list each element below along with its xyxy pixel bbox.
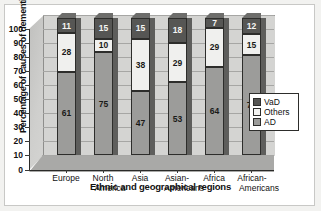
segment-ad[interactable]: 75	[94, 52, 113, 155]
x-axis-title: Ethnic and geographical regions	[5, 181, 316, 192]
y-tick-label: 30	[5, 123, 23, 131]
chart-figure: Percentage of causes of dementia 100 90 …	[4, 4, 315, 206]
segment-vad[interactable]: 15	[131, 18, 150, 39]
legend-swatch-others-icon	[253, 108, 261, 116]
y-tick	[25, 155, 30, 156]
left-wall-3d	[29, 15, 44, 170]
y-tick	[25, 57, 30, 58]
segment-others[interactable]: 28	[57, 33, 76, 71]
y-tick-label: 20	[5, 137, 23, 145]
y-tick-label: 90	[5, 39, 23, 47]
bar-side-3d	[76, 18, 81, 155]
y-tick	[25, 71, 30, 72]
segment-others[interactable]: 29	[205, 28, 224, 68]
segment-ad[interactable]: 61	[57, 72, 76, 156]
bar-europe[interactable]: 61 28 11	[57, 18, 76, 155]
y-tick	[25, 113, 30, 114]
bar-africa[interactable]: 64 29 7	[205, 18, 224, 155]
legend-label-others: Others	[264, 108, 290, 117]
bar-asian-americans[interactable]: 53 29 18	[168, 18, 187, 155]
segment-vad[interactable]: 12	[242, 18, 261, 34]
legend-label-ad: AD	[264, 118, 276, 127]
segment-vad[interactable]: 18	[168, 18, 187, 43]
y-tick	[25, 85, 30, 86]
legend-swatch-ad-icon	[253, 118, 261, 126]
y-tick-label: 60	[5, 81, 23, 89]
segment-vad[interactable]: 11	[57, 18, 76, 33]
bar-side-3d	[224, 18, 229, 155]
bar-african-americans[interactable]: 73 15 12	[242, 18, 261, 155]
plot-area: 100 90 80 70 60 50 40 30 20 10 0 61 28 1…	[29, 15, 274, 173]
segment-vad[interactable]: 7	[205, 18, 224, 28]
segment-others[interactable]: 10	[94, 39, 113, 53]
segment-ad[interactable]: 47	[131, 91, 150, 155]
legend: VaD Others AD	[249, 93, 299, 131]
bar-asia[interactable]: 47 38 15	[131, 18, 150, 155]
legend-item-others[interactable]: Others	[253, 107, 294, 117]
segment-others[interactable]: 38	[131, 39, 150, 91]
y-tick-label: 10	[5, 151, 23, 159]
bar-side-3d	[261, 18, 266, 155]
y-tick	[25, 29, 30, 30]
y-tick-label: 50	[5, 95, 23, 103]
y-tick	[25, 170, 30, 171]
y-tick	[25, 141, 30, 142]
y-tick-label: 70	[5, 67, 23, 75]
segment-vad[interactable]: 15	[94, 18, 113, 39]
legend-item-vad[interactable]: VaD	[253, 97, 294, 107]
segment-ad[interactable]: 64	[205, 67, 224, 155]
y-tick-label: 80	[5, 53, 23, 61]
bar-side-3d	[187, 18, 192, 155]
y-tick-label: 100	[5, 25, 23, 33]
y-tick-label: 40	[5, 109, 23, 117]
y-tick	[25, 127, 30, 128]
gridline	[43, 155, 274, 156]
legend-swatch-vad-icon	[253, 98, 261, 106]
y-tick	[25, 99, 30, 100]
bar-north-america[interactable]: 75 10 15	[94, 18, 113, 155]
segment-others[interactable]: 15	[242, 34, 261, 55]
y-tick-label: 0	[5, 166, 23, 174]
y-tick	[25, 43, 30, 44]
segment-ad[interactable]: 53	[168, 82, 187, 155]
legend-item-ad[interactable]: AD	[253, 117, 294, 127]
y-axis-line	[29, 29, 30, 171]
bar-side-3d	[150, 18, 155, 155]
gridline	[43, 15, 274, 16]
segment-others[interactable]: 29	[168, 43, 187, 83]
legend-label-vad: VaD	[264, 98, 280, 107]
bar-side-3d	[113, 18, 118, 155]
